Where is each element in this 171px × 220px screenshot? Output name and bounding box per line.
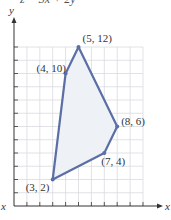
vertex-label: (3, 2) [26, 181, 50, 194]
chart: xyx(3, 2)(4, 10)(5, 12)(8, 6)(7, 4) [0, 0, 171, 220]
vertex-label: (7, 4) [101, 155, 125, 168]
left-cut-label: x [0, 200, 6, 212]
y-axis-label: y [8, 4, 14, 16]
vertex-label: (5, 12) [83, 32, 113, 45]
vertex-point [77, 45, 81, 49]
x-axis-label: x [164, 200, 170, 212]
vertex-label: (4, 10) [37, 62, 67, 75]
y-axis-arrow-icon [12, 17, 17, 23]
vertex-point [115, 125, 119, 129]
x-axis-arrow-icon [157, 204, 163, 209]
vertex-point [51, 178, 55, 182]
vertex-label: (8, 6) [121, 115, 145, 128]
